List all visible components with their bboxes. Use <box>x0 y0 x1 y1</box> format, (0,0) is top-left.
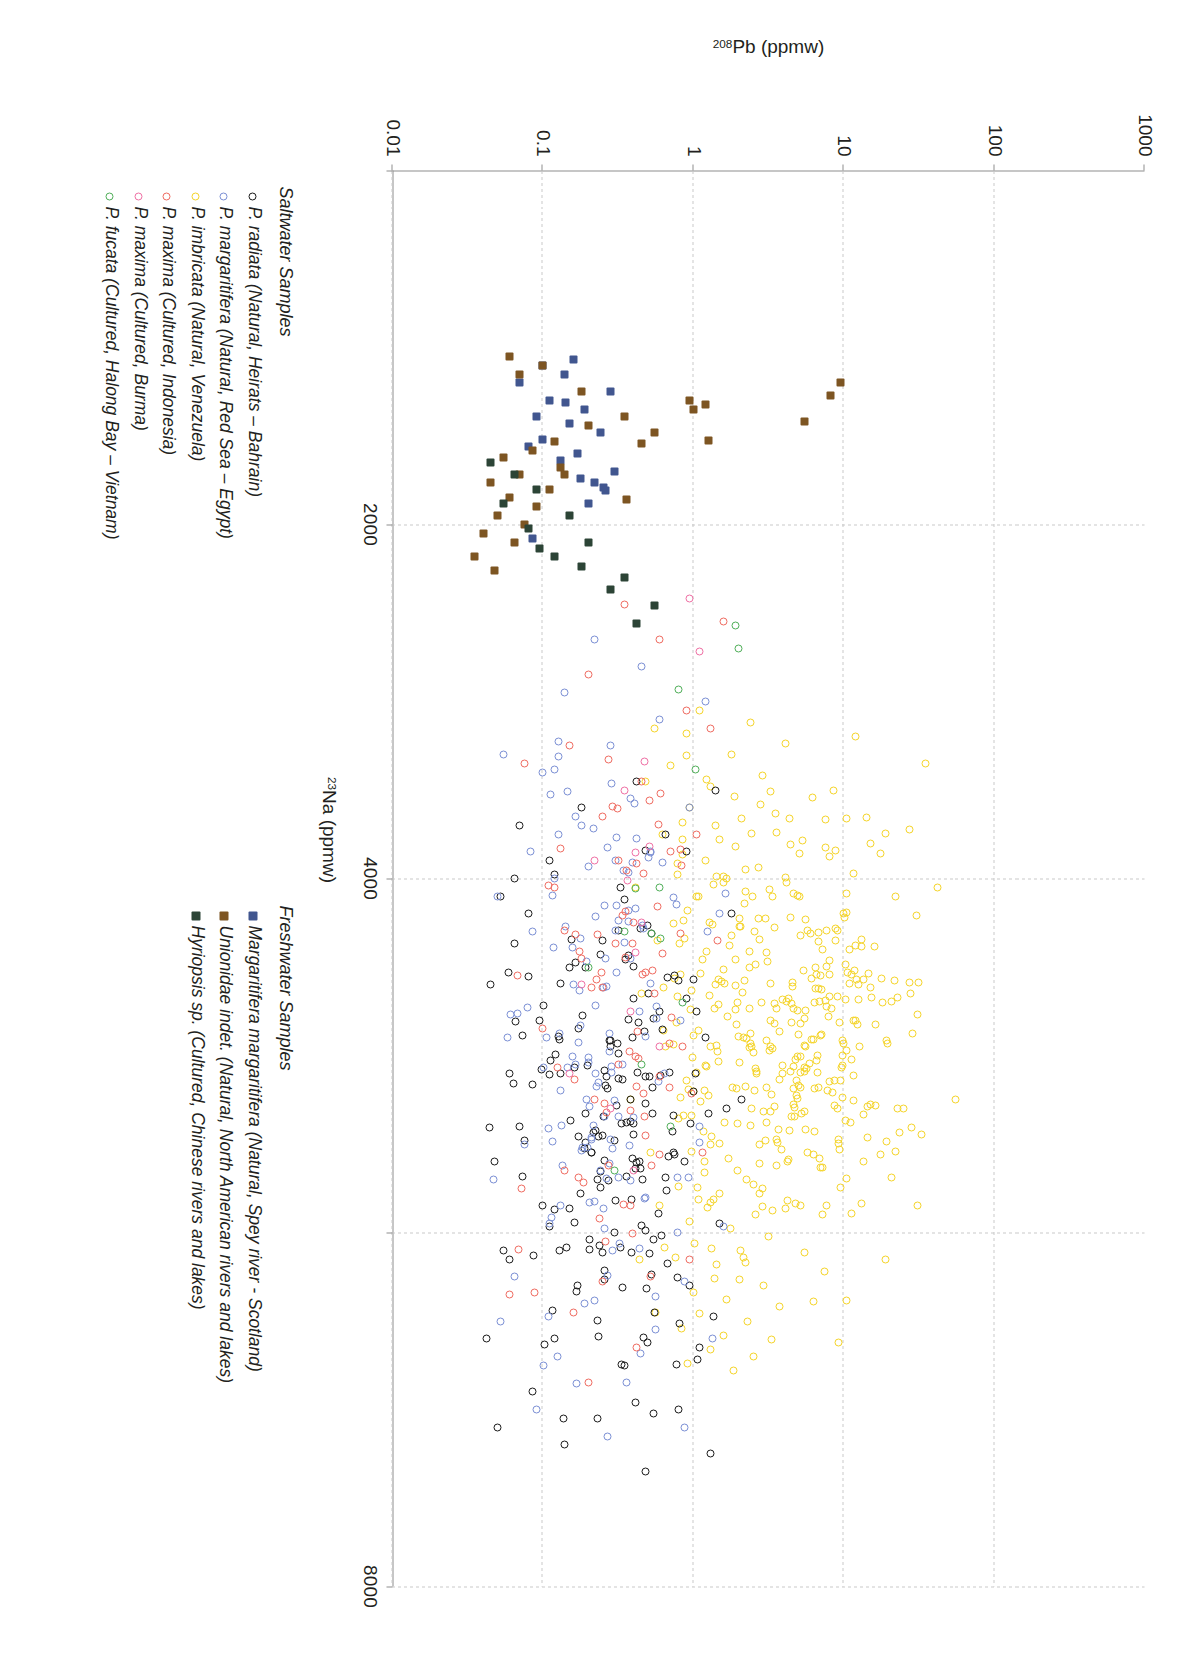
data-point <box>682 994 690 1002</box>
data-point <box>845 945 853 953</box>
data-point <box>679 1111 687 1119</box>
data-point <box>696 969 704 977</box>
data-point <box>578 1143 586 1151</box>
data-point <box>763 957 771 965</box>
data-point <box>603 1432 611 1440</box>
data-point <box>895 1128 903 1136</box>
data-point <box>656 1071 664 1079</box>
data-point <box>547 1213 555 1221</box>
data-point <box>645 1249 653 1257</box>
legend-item-unionidae-indet[interactable]: Unionidae indet. (Natural, North America… <box>216 905 234 1382</box>
legend-item-hyriopsis-sp[interactable]: Hyriopsis sp. (Cultured, Chinese rivers … <box>188 905 206 1382</box>
data-point <box>813 1051 821 1059</box>
data-point <box>642 1284 650 1292</box>
legend-item-label: P. radiata (Natural, Heirats – Bahrain) <box>245 206 263 497</box>
data-point <box>682 729 690 737</box>
data-point <box>560 926 568 934</box>
data-point <box>777 1145 785 1153</box>
data-point <box>629 994 637 1002</box>
data-point <box>618 1060 626 1068</box>
data-point <box>821 815 829 823</box>
data-point <box>600 1112 608 1120</box>
data-point <box>881 829 889 837</box>
data-point <box>766 979 774 987</box>
data-point <box>807 1035 815 1043</box>
data-point <box>847 970 855 978</box>
data-point <box>626 1201 634 1209</box>
legend-item-p-imbricata[interactable]: P. imbricata (Natural, Venezuela) <box>188 186 206 539</box>
data-point <box>695 1343 703 1351</box>
legend-item-p-margaritifera[interactable]: P. margaritifera (Natural, Red Sea – Egy… <box>216 186 234 539</box>
data-point <box>600 1224 608 1232</box>
data-point <box>767 1335 775 1343</box>
data-point <box>627 1195 635 1203</box>
data-point <box>793 1006 801 1014</box>
data-point <box>751 1210 759 1218</box>
data-point <box>606 1135 614 1143</box>
data-point <box>637 439 645 447</box>
data-point <box>905 978 913 986</box>
data-point <box>581 1138 589 1146</box>
data-point <box>612 1101 620 1109</box>
data-point <box>854 980 862 988</box>
data-point <box>833 992 841 1000</box>
data-point <box>751 1064 759 1072</box>
data-point <box>796 931 804 939</box>
data-point <box>554 830 562 838</box>
data-point <box>758 1202 766 1210</box>
data-point <box>595 1241 603 1249</box>
data-point <box>589 824 597 832</box>
data-point <box>626 1095 634 1103</box>
data-point <box>561 922 569 930</box>
data-point <box>518 1172 526 1180</box>
data-point <box>601 954 609 962</box>
data-point <box>800 1067 808 1075</box>
data-point <box>631 1398 639 1406</box>
data-point <box>810 998 818 1006</box>
legend-saltwater-items: P. radiata (Natural, Heirats – Bahrain)P… <box>102 186 262 539</box>
data-point <box>670 1150 678 1158</box>
data-point <box>715 909 723 917</box>
data-point <box>647 1161 655 1169</box>
data-point <box>585 1198 593 1206</box>
data-point <box>496 892 504 900</box>
data-point <box>815 1154 823 1162</box>
data-point <box>614 1112 622 1120</box>
data-point <box>639 1333 647 1341</box>
data-point <box>607 1062 615 1070</box>
data-point <box>499 453 507 461</box>
data-point <box>816 1031 824 1039</box>
legend-item-margaritifera-margaritifera[interactable]: Margaritifera margaritifera (Natural, Sp… <box>245 905 263 1382</box>
data-point <box>788 982 796 990</box>
data-point <box>887 1173 895 1181</box>
data-point <box>606 1104 614 1112</box>
data-point <box>798 836 806 844</box>
data-point <box>670 974 678 982</box>
legend-item-p-maxima-indonesia[interactable]: P. maxima (Cultured, Indonesia) <box>159 186 177 539</box>
legend-item-p-maxima-burma[interactable]: P. maxima (Cultured, Burma) <box>131 186 149 539</box>
data-point <box>701 1061 709 1069</box>
data-point <box>666 1122 674 1130</box>
data-point <box>550 870 558 878</box>
data-point <box>532 1405 540 1413</box>
data-point <box>678 850 686 858</box>
data-point <box>728 1083 736 1091</box>
data-point <box>678 998 686 1006</box>
data-point <box>631 904 639 912</box>
data-point <box>731 842 739 850</box>
data-point <box>647 929 655 937</box>
data-point <box>605 1159 613 1167</box>
data-point <box>555 1029 563 1037</box>
legend-item-p-radiata[interactable]: P. radiata (Natural, Heirats – Bahrain) <box>245 186 263 539</box>
data-point <box>796 1019 804 1027</box>
data-point <box>830 1076 838 1084</box>
data-point <box>682 751 690 759</box>
data-point <box>532 502 540 510</box>
data-point <box>640 1112 648 1120</box>
legend-item-p-fucata[interactable]: P. fucata (Cultured, Halong Bay – Vietna… <box>102 186 120 539</box>
data-point <box>479 529 487 537</box>
data-point <box>549 943 557 951</box>
data-point <box>641 777 649 785</box>
data-point <box>669 1040 677 1048</box>
data-point <box>727 750 735 758</box>
